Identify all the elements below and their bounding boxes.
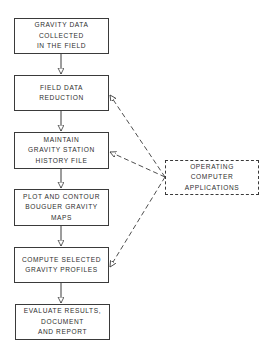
step-maintain-history-file: MAINTAIN GRAVITY STATION HISTORY FILE — [14, 132, 109, 169]
step-label-line: EVALUATE RESULTS, — [24, 306, 101, 317]
step-compute-gravity-profiles: COMPUTE SELECTED GRAVITY PROFILES — [14, 247, 109, 283]
step-label-line: BOUGUER GRAVITY — [25, 202, 98, 213]
step-label-line: GRAVITY DATA — [35, 20, 89, 31]
step-evaluate-document-report: EVALUATE RESULTS, DOCUMENT AND REPORT — [15, 304, 110, 340]
step-label-line: DOCUMENT — [41, 317, 84, 328]
support-label-line: APPLICATIONS — [185, 183, 240, 194]
step-label-line: COLLECTED — [39, 31, 84, 42]
step-label-line: PLOT AND CONTOUR — [23, 192, 100, 203]
step-field-data-reduction: FIELD DATA REDUCTION — [14, 75, 109, 111]
step-label-line: REDUCTION — [39, 93, 84, 104]
step-label-line: FIELD DATA — [40, 83, 83, 94]
step-label-line: MAPS — [51, 213, 72, 224]
support-label-line: OPERATING — [190, 162, 234, 173]
support-connectors — [110, 95, 165, 267]
step-label-line: IN THE FIELD — [37, 41, 86, 52]
step-label-line: AND REPORT — [38, 327, 87, 338]
step-label-line: COMPUTE SELECTED — [22, 255, 101, 266]
step-label-line: GRAVITY STATION — [28, 145, 95, 156]
dashed-connector-to-step5 — [110, 177, 165, 267]
step-plot-contour-maps: PLOT AND CONTOUR BOUGUER GRAVITY MAPS — [14, 189, 109, 226]
gravity-workflow-diagram: GRAVITY DATA COLLECTED IN THE FIELD FIEL… — [0, 0, 269, 347]
dashed-connector-to-step2 — [110, 95, 165, 177]
dashed-connector-to-step3 — [110, 152, 165, 177]
step-label-line: GRAVITY PROFILES — [25, 265, 97, 276]
support-operating-computer-applications: OPERATING COMPUTER APPLICATIONS — [165, 160, 259, 195]
step-gravity-data-collected: GRAVITY DATA COLLECTED IN THE FIELD — [14, 18, 109, 54]
step-label-line: HISTORY FILE — [36, 156, 88, 167]
step-label-line: MAINTAIN — [44, 135, 80, 146]
support-label-line: COMPUTER — [191, 172, 234, 183]
